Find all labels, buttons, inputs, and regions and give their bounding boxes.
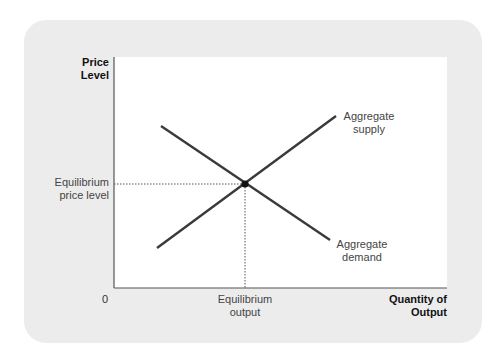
equilibrium-output-label-line2: output bbox=[205, 306, 285, 319]
x-axis-label-line2: Output bbox=[370, 306, 447, 319]
x-axis-label-line1: Quantity of bbox=[370, 293, 447, 306]
y-axis-label-line1: Price bbox=[60, 56, 109, 69]
equilibrium-price-label-line1: Equilibrium bbox=[30, 176, 109, 189]
aggregate-demand-label-line2: demand bbox=[329, 251, 395, 264]
aggregate-supply-label-line2: supply bbox=[336, 123, 402, 136]
equilibrium-output-label: Equilibrium output bbox=[205, 293, 285, 319]
y-axis-label: Price Level bbox=[60, 56, 109, 82]
aggregate-supply-label: Aggregate supply bbox=[336, 110, 402, 136]
aggregate-supply-label-line1: Aggregate bbox=[336, 110, 402, 123]
equilibrium-point bbox=[241, 180, 248, 187]
aggregate-demand-label-line1: Aggregate bbox=[329, 238, 395, 251]
equilibrium-output-label-line1: Equilibrium bbox=[205, 293, 285, 306]
y-axis-label-line2: Level bbox=[60, 69, 109, 82]
origin-label: 0 bbox=[102, 293, 108, 306]
aggregate-demand-label: Aggregate demand bbox=[329, 238, 395, 264]
equilibrium-price-label-line2: price level bbox=[30, 189, 109, 202]
equilibrium-price-label: Equilibrium price level bbox=[30, 176, 109, 202]
x-axis-label: Quantity of Output bbox=[370, 293, 447, 319]
